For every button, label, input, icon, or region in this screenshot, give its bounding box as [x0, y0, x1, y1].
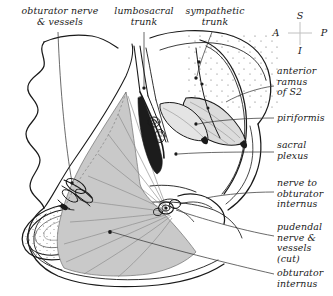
sympathetic-ganglion [200, 82, 203, 85]
ischial-spine-outline [178, 194, 225, 224]
label-nerve-to-obturator-internus: nerve to obturator internus [277, 178, 333, 210]
label-lumbosacral-trunk: lumbosacral trunk [110, 6, 178, 27]
label-obturator-internus: obturator internus [277, 268, 333, 289]
leader-dot [194, 76, 197, 79]
obturator-internus-tendon [168, 206, 194, 222]
label-piriformis: piriformis [277, 113, 333, 124]
leader-sacral-plexus [178, 152, 274, 154]
label-pudendal-nerve-vessels-cut: pudendal nerve & vessels (cut) [277, 222, 333, 264]
leader-dot [142, 86, 145, 89]
sympathetic-ganglion [197, 60, 200, 63]
compass-cross [288, 22, 312, 45]
label-sympathetic-trunk: sympathetic trunk [181, 6, 249, 27]
leader-obturator-nerve [58, 32, 72, 182]
leader-nerve-obturator-internus [206, 192, 274, 198]
label-sacral-plexus: sacral plexus [277, 140, 333, 161]
compass-anterior-letter: A [270, 27, 282, 38]
label-obturator-nerve-vessels: obturator nerve & vessels [10, 6, 110, 27]
compass-inferior-letter: I [294, 45, 306, 56]
leader-pudendal [176, 210, 274, 236]
leader-dot [70, 181, 73, 184]
compass-superior-letter: S [294, 10, 306, 21]
lumbosacral-trunk-cord-1 [134, 46, 140, 92]
leader-dot [108, 230, 112, 234]
anatomy-figure: obturator nerve & vessels lumbosacral tr… [0, 0, 333, 296]
iliac-crest-outline [26, 42, 44, 208]
leader-dot [194, 122, 197, 125]
pelvic-brim-superior [44, 35, 118, 48]
leader-dot [174, 152, 177, 155]
label-anterior-ramus-of-s2: anterior ramus of S2 [277, 66, 333, 98]
sympathetic-ganglion [207, 107, 210, 110]
compass-posterior-letter: P [318, 27, 330, 38]
